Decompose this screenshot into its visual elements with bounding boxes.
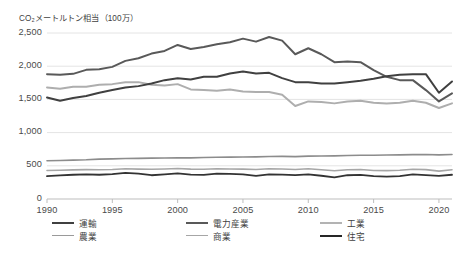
legend-label-agriculture: 農業 xyxy=(79,230,97,242)
legend-item-commercial[interactable]: 商業 xyxy=(186,230,320,242)
x-tick-label-2020: 2020 xyxy=(419,205,459,215)
x-tick-label-1990: 1990 xyxy=(27,205,67,215)
legend-item-agriculture[interactable]: 農業 xyxy=(52,230,186,242)
line-chart: CO₂メートルトン相当（100万） 05001,0001,5002,0002,5… xyxy=(0,0,465,256)
y-tick-label-2000: 2,000 xyxy=(0,60,42,70)
legend-label-commercial: 商業 xyxy=(213,230,231,242)
legend-label-transport: 運輸 xyxy=(79,217,97,229)
y-tick-label-2500: 2,500 xyxy=(0,27,42,37)
chart-legend: 運輸電力産業工業農業商業住宅 xyxy=(52,216,452,242)
x-tick-label-2000: 2000 xyxy=(158,205,198,215)
series-line-industry xyxy=(47,82,452,108)
legend-item-residential[interactable]: 住宅 xyxy=(320,230,440,242)
legend-item-industry[interactable]: 工業 xyxy=(320,217,440,229)
legend-label-industry: 工業 xyxy=(347,217,365,229)
legend-row: 運輸電力産業工業 xyxy=(52,216,452,229)
legend-swatch-power xyxy=(186,222,208,224)
legend-swatch-commercial xyxy=(186,235,208,236)
x-tick-label-2015: 2015 xyxy=(354,205,394,215)
series-line-transport xyxy=(47,72,452,101)
x-tick-label-2005: 2005 xyxy=(223,205,263,215)
legend-item-transport[interactable]: 運輸 xyxy=(52,217,186,229)
y-tick-label-0: 0 xyxy=(0,193,42,203)
series-line-residential xyxy=(47,173,452,177)
legend-swatch-industry xyxy=(320,222,342,224)
x-tick-label-2010: 2010 xyxy=(288,205,328,215)
legend-row: 農業商業住宅 xyxy=(52,229,452,242)
legend-label-residential: 住宅 xyxy=(347,230,365,242)
legend-label-power: 電力産業 xyxy=(213,217,249,229)
series-line-commercial xyxy=(47,168,452,171)
legend-swatch-transport xyxy=(52,222,74,224)
legend-item-power[interactable]: 電力産業 xyxy=(186,217,320,229)
legend-swatch-residential xyxy=(320,235,342,237)
x-tick-label-1995: 1995 xyxy=(92,205,132,215)
y-tick-label-1500: 1,500 xyxy=(0,93,42,103)
y-tick-label-500: 500 xyxy=(0,159,42,169)
series-line-agriculture xyxy=(47,155,452,161)
legend-swatch-agriculture xyxy=(52,235,74,236)
y-tick-label-1000: 1,000 xyxy=(0,126,42,136)
